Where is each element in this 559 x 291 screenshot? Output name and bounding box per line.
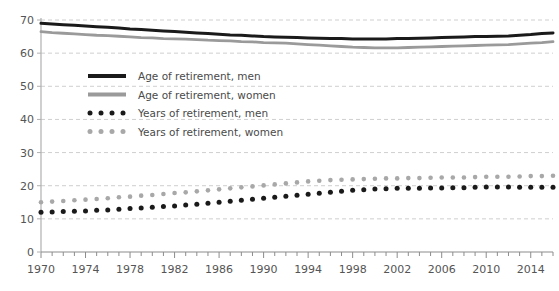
legend-swatch-dot — [110, 111, 115, 116]
series-dot — [139, 193, 144, 198]
series-dot — [339, 189, 344, 194]
series-dot — [150, 193, 155, 198]
series-dot — [239, 185, 244, 190]
series-dot — [551, 173, 556, 178]
series-dot — [439, 186, 444, 191]
series-dot — [439, 175, 444, 180]
y-tick-label: 20 — [20, 180, 34, 193]
series-dot — [406, 176, 411, 181]
retirement-chart: 010203040506070 197019741978198219861990… — [0, 0, 559, 291]
series-dot — [94, 208, 99, 213]
x-tick-label: 2010 — [472, 263, 500, 276]
series-dot — [172, 203, 177, 208]
legend-swatch-dot — [110, 129, 115, 134]
series-dot — [495, 174, 500, 179]
series-dot — [306, 192, 311, 197]
series-dot — [50, 199, 55, 204]
series-dot — [284, 181, 289, 186]
series-dot — [250, 184, 255, 189]
series-dot — [317, 178, 322, 183]
series-dot — [183, 190, 188, 195]
series-dot — [228, 199, 233, 204]
series-dot — [139, 205, 144, 210]
series-dot — [128, 194, 133, 199]
legend-label: Years of retirement, men — [137, 107, 268, 119]
series-dot — [39, 200, 44, 205]
series-dot — [272, 195, 277, 200]
legend-swatch-dot — [99, 129, 104, 134]
series-dot — [116, 207, 121, 212]
series-dot — [306, 179, 311, 184]
legend-swatch-dot — [88, 111, 93, 116]
series-dot — [350, 177, 355, 182]
series-dot — [61, 209, 66, 214]
series-dot — [395, 176, 400, 181]
series-dot — [105, 207, 110, 212]
series-dot — [339, 177, 344, 182]
series-dot — [261, 196, 266, 201]
x-tick-label: 2002 — [383, 263, 411, 276]
series-dot — [205, 201, 210, 206]
x-tick-label: 1994 — [294, 263, 322, 276]
series-dot — [517, 185, 522, 190]
series-dot — [250, 197, 255, 202]
series-dot — [183, 202, 188, 207]
y-tick-label: 0 — [27, 246, 34, 259]
x-tick-label: 1978 — [116, 263, 144, 276]
series-dot — [361, 187, 366, 192]
series-dot — [506, 174, 511, 179]
series-dot — [495, 185, 500, 190]
series-dot — [361, 177, 366, 182]
series-dot — [172, 191, 177, 196]
x-tick-label: 1974 — [72, 263, 100, 276]
series-dot — [128, 206, 133, 211]
series-dot — [484, 185, 489, 190]
chart-canvas: 010203040506070 197019741978198219861990… — [0, 0, 559, 291]
series-dot — [161, 192, 166, 197]
series-dot — [105, 196, 110, 201]
legend-swatch-dot — [99, 111, 104, 116]
series-dot — [506, 185, 511, 190]
x-tick-label: 1998 — [339, 263, 367, 276]
series-dot — [117, 195, 122, 200]
series-dot — [295, 180, 300, 185]
series-dot — [372, 187, 377, 192]
legend-label: Age of retirement, men — [138, 70, 261, 82]
series-dot — [72, 209, 77, 214]
x-tick-label: 2014 — [517, 263, 545, 276]
series-dot — [540, 174, 545, 179]
series-dot — [272, 182, 277, 187]
series-dot — [83, 197, 88, 202]
series-dot — [428, 175, 433, 180]
series-dot — [417, 186, 422, 191]
series-dot — [417, 176, 422, 181]
series-dot — [473, 185, 478, 190]
legend-swatch-dot — [121, 129, 126, 134]
series-dot — [283, 194, 288, 199]
series-dot — [528, 185, 533, 190]
series-dot — [194, 202, 199, 207]
y-tick-label: 50 — [20, 80, 34, 93]
y-tick-label: 10 — [20, 213, 34, 226]
legend-swatch-dot — [121, 111, 126, 116]
x-tick-label: 1970 — [27, 263, 55, 276]
series-dot — [239, 198, 244, 203]
series-dot — [517, 174, 522, 179]
series-dot — [228, 186, 233, 191]
series-dot — [539, 185, 544, 190]
series-dot — [39, 210, 44, 215]
series-dot — [384, 176, 389, 181]
series-dot — [473, 175, 478, 180]
series-dot — [484, 174, 489, 179]
x-tick-label: 1986 — [205, 263, 233, 276]
series-dot — [195, 189, 200, 194]
series-dot — [206, 188, 211, 193]
series-dot — [350, 188, 355, 193]
series-dot — [317, 191, 322, 196]
x-tick-label: 2006 — [428, 263, 456, 276]
series-dot — [61, 199, 66, 204]
series-dot — [217, 187, 222, 192]
series-dot — [461, 185, 466, 190]
series-dot — [451, 175, 456, 180]
series-dot — [528, 174, 533, 179]
